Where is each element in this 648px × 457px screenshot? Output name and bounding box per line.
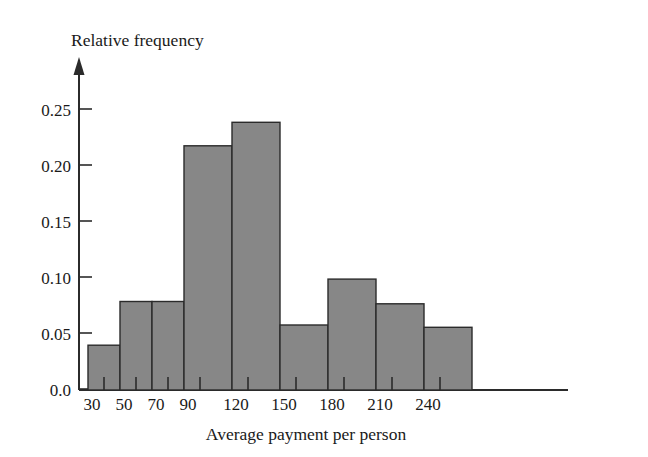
y-tick-label: 0.0 xyxy=(50,381,71,400)
histogram-plot: Relative frequency 0.0 0.05 0.10 0.15 0.… xyxy=(0,0,648,457)
histogram-bar xyxy=(376,304,424,390)
y-tick-label: 0.10 xyxy=(41,269,71,288)
x-tick-label: 30 xyxy=(84,395,101,414)
histogram-bar xyxy=(328,279,376,390)
histogram-bar xyxy=(232,122,280,390)
x-tick-label: 50 xyxy=(116,395,133,414)
y-axis-title: Relative frequency xyxy=(71,30,204,50)
histogram-bar xyxy=(120,302,152,391)
y-tick-labels: 0.0 0.05 0.10 0.15 0.20 0.25 xyxy=(41,101,71,400)
y-tick-label: 0.25 xyxy=(41,101,71,120)
y-tick-label: 0.15 xyxy=(41,213,71,232)
x-tick-label: 240 xyxy=(415,395,441,414)
y-tick-label: 0.05 xyxy=(41,325,71,344)
x-tick-label: 180 xyxy=(319,395,345,414)
histogram-bar xyxy=(280,325,328,390)
x-axis-title: Average payment per person xyxy=(206,424,407,444)
x-tick-label: 120 xyxy=(223,395,249,414)
x-tick-label: 90 xyxy=(180,395,197,414)
x-tick-label: 150 xyxy=(271,395,297,414)
y-tick-label: 0.20 xyxy=(41,157,71,176)
histogram-bar xyxy=(184,146,232,390)
y-axis xyxy=(74,57,85,390)
histogram-figure: Relative frequency 0.0 0.05 0.10 0.15 0.… xyxy=(0,0,648,457)
histogram-bars xyxy=(88,122,472,390)
y-axis-arrow-icon xyxy=(74,57,85,75)
x-tick-labels: 30 50 70 90 120 150 180 210 240 xyxy=(84,395,441,414)
histogram-bar xyxy=(152,302,184,391)
histogram-bar xyxy=(424,327,472,390)
x-tick-label: 210 xyxy=(367,395,393,414)
x-tick-label: 70 xyxy=(148,395,165,414)
